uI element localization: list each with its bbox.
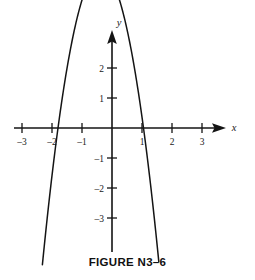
y-tick-label-2: 2 xyxy=(99,64,104,74)
x-tick-label-3: 3 xyxy=(200,137,205,147)
y-tick-label--3: –3 xyxy=(94,214,105,224)
figure-container: –3 –2 –1 1 2 3 2 1 –1 –2 –3 x y FIGURE N… xyxy=(0,0,255,280)
parabola-curve xyxy=(42,0,158,265)
y-axis-label: y xyxy=(116,17,122,28)
figure-caption: FIGURE N3–6 xyxy=(0,256,255,268)
x-tick-label-2: 2 xyxy=(170,137,175,147)
y-tick-label--1: –1 xyxy=(94,154,105,164)
cartesian-plot: –3 –2 –1 1 2 3 2 1 –1 –2 –3 x y xyxy=(0,0,255,280)
x-tick-label--3: –3 xyxy=(16,137,27,147)
x-tick-label--1: –1 xyxy=(76,137,87,147)
x-tick-label-1: 1 xyxy=(140,137,145,147)
x-axis-label: x xyxy=(231,122,237,133)
y-tick-label--2: –2 xyxy=(94,184,105,194)
y-tick-label-1: 1 xyxy=(99,94,104,104)
